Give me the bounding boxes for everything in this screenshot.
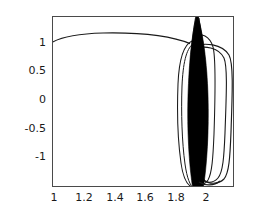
ytick-label-1: 1 xyxy=(14,37,46,48)
ytick-label-neg-0-5: -0.5 xyxy=(10,123,46,134)
ytick-label-neg-1: -1 xyxy=(10,151,46,162)
chart-figure: 1 1.2 1.4 1.6 1.8 2 1 0.5 0 -0.5 -1 xyxy=(0,0,253,220)
xtick-label-1-8: 1.8 xyxy=(167,192,185,203)
ytick-label-0: 0 xyxy=(14,94,46,105)
curve-slow-branch xyxy=(52,33,190,44)
xtick-label-1-4: 1.4 xyxy=(106,192,124,203)
xtick-label-1: 1 xyxy=(51,192,58,203)
xtick-label-1-6: 1.6 xyxy=(136,192,154,203)
plot-canvas xyxy=(0,0,253,220)
xtick-label-2: 2 xyxy=(203,192,210,203)
xtick-label-1-2: 1.2 xyxy=(75,192,93,203)
ytick-label-0-5: 0.5 xyxy=(14,65,46,76)
